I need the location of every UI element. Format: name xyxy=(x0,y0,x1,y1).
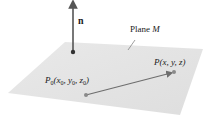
plane-diagram: n Plane M P(x, y, z) P0(x0, y0, z0) xyxy=(0,0,216,125)
normal-base-dot xyxy=(71,50,75,54)
plane-m xyxy=(8,42,203,115)
point-p-label: P(x, y, z) xyxy=(154,58,186,67)
point-p0-dot xyxy=(84,93,88,97)
p0-z-sub: 0 xyxy=(83,80,86,86)
point-p-label-text: P(x, y, z) xyxy=(154,57,186,67)
p0-subscript: 0 xyxy=(51,80,54,86)
plane-label-name: M xyxy=(152,24,160,34)
p0-x-sub: 0 xyxy=(61,80,64,86)
point-p-dot xyxy=(172,70,176,74)
plane-label-prefix: Plane xyxy=(130,24,152,34)
point-p0-label: P0(x0, y0, z0) xyxy=(45,76,89,86)
p0-y-sub: 0 xyxy=(72,80,75,86)
normal-label-text: n xyxy=(78,15,84,26)
plane-label: Plane M xyxy=(130,25,160,34)
normal-vector-label: n xyxy=(78,16,84,26)
